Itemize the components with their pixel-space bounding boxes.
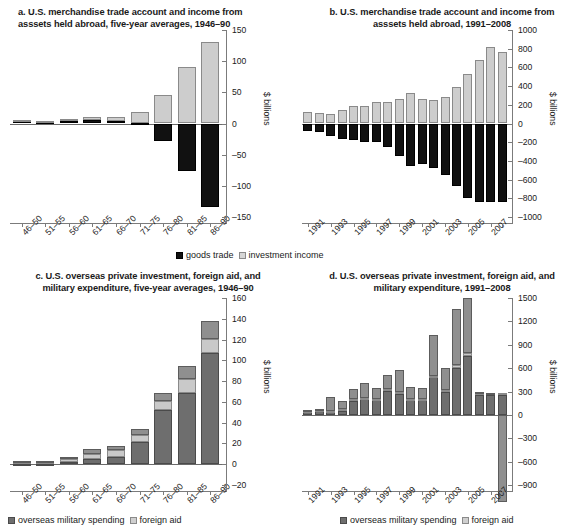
x-tick-label: 2005	[466, 484, 487, 505]
chart-d-plot: 1991199319951997199920012003200520071500…	[302, 298, 508, 485]
chart-d-title-line2: military expenditure, 1991–2008	[302, 282, 582, 294]
bar-segment	[360, 399, 369, 415]
x-tick-label: 1995	[352, 484, 373, 505]
y-tick-label: –1000	[518, 213, 542, 222]
y-tick-label: 1500	[518, 294, 537, 303]
y-tick	[222, 124, 226, 125]
chart-b-title-line1: b. U.S. merchandise trade account and in…	[302, 6, 582, 18]
y-tick	[508, 217, 512, 218]
bar-segment	[131, 435, 149, 442]
bar-segment	[303, 124, 312, 131]
x-tick	[434, 223, 435, 227]
bar-segment	[36, 121, 54, 123]
bar-segment	[441, 124, 450, 175]
chart-panel-c: c. U.S. overseas private investment, for…	[0, 264, 294, 528]
x-tick-label: 2005	[466, 216, 487, 237]
y-tick	[508, 321, 512, 322]
x-tick	[457, 491, 458, 495]
x-tick	[319, 491, 320, 495]
zero-line	[302, 415, 508, 416]
y-tick	[508, 67, 512, 68]
y-axis-title: $ billions	[548, 360, 558, 393]
bar-segment	[372, 102, 381, 123]
bar-segment	[429, 100, 438, 124]
bar-segment	[429, 377, 438, 414]
x-tick	[479, 223, 480, 227]
bar-segment	[383, 391, 392, 415]
legend-item-goods-trade: goods trade	[176, 250, 234, 260]
bar-segment	[201, 124, 219, 208]
bar-segment	[36, 461, 54, 463]
bar-segment	[83, 454, 101, 459]
bar-segment	[83, 120, 101, 123]
bar-segment	[418, 388, 427, 399]
bar-segment	[463, 74, 472, 124]
foreign-aid-swatch-icon-d	[462, 517, 469, 524]
bar-segment	[178, 67, 196, 124]
y-tick-label: 600	[518, 63, 532, 72]
bar-segment	[452, 368, 461, 415]
bar-segment	[60, 457, 78, 459]
bar-segment	[131, 442, 149, 464]
bar-segment	[395, 99, 404, 124]
bar-segment	[107, 446, 125, 450]
bar-segment	[406, 387, 415, 398]
bar-segment	[383, 375, 392, 389]
x-tick-label: 71–75	[138, 481, 162, 505]
bar-segment	[475, 395, 484, 415]
bar-segment	[372, 399, 381, 401]
legend-label-foreign-aid-c: foreign aid	[140, 515, 182, 525]
bar-segment	[452, 365, 461, 367]
y-tick	[222, 61, 226, 62]
x-tick-label: 1991	[306, 216, 327, 237]
y-tick	[222, 92, 226, 93]
bar-segment	[360, 106, 369, 124]
bar-segment	[201, 339, 219, 354]
bar-segment	[107, 117, 125, 121]
y-tick-label: 140	[232, 315, 246, 324]
bar-segment	[338, 110, 347, 123]
bar-segment	[349, 124, 358, 140]
chart-b-plot: 1991199319951997199920012003200520071000…	[302, 30, 508, 217]
bar-segment	[452, 87, 461, 123]
bar-segment	[338, 401, 347, 409]
y-tick	[508, 368, 512, 369]
bar-segment	[60, 119, 78, 121]
chart-panel-d: d. U.S. overseas private investment, for…	[294, 264, 588, 528]
x-tick-label: 2003	[443, 484, 464, 505]
legend-ab: goods trade investment income	[176, 250, 324, 260]
bar-segment	[406, 400, 415, 415]
x-tick-label: 51–55	[43, 481, 67, 505]
legend-label-military-c: overseas military spending	[18, 515, 125, 525]
legend-item-military-c: overseas military spending	[8, 515, 125, 525]
x-tick-label: 86–90	[208, 481, 232, 505]
bar-segment	[326, 114, 335, 124]
y-tick	[508, 161, 512, 162]
y-tick	[222, 464, 226, 465]
x-tick-label: 86–90	[208, 213, 232, 237]
bar-segment	[418, 399, 427, 401]
x-tick	[342, 223, 343, 227]
x-tick	[319, 223, 320, 227]
y-tick-label: 20	[232, 439, 242, 448]
legend-label-military-d: overseas military spending	[350, 515, 457, 525]
bar-segment	[303, 112, 312, 123]
x-tick-label: 1993	[329, 484, 350, 505]
legend-item-foreign-aid-d: foreign aid	[462, 515, 514, 525]
y-tick	[508, 49, 512, 50]
bar-segment	[383, 389, 392, 391]
x-tick-label: 46–50	[20, 481, 44, 505]
x-tick-label: 1995	[352, 216, 373, 237]
bar-segment	[395, 394, 404, 415]
x-tick-label: 76–80	[161, 213, 185, 237]
bar-segment	[349, 389, 358, 400]
y-tick	[508, 142, 512, 143]
bar-segment	[326, 124, 335, 137]
y-tick	[222, 30, 226, 31]
bar-segment	[475, 392, 484, 394]
legend-label-investment-income: investment income	[249, 250, 324, 260]
x-tick	[434, 491, 435, 495]
y-tick-label: 100	[232, 57, 246, 66]
x-tick	[411, 223, 412, 227]
x-tick-label: 1997	[374, 484, 395, 505]
